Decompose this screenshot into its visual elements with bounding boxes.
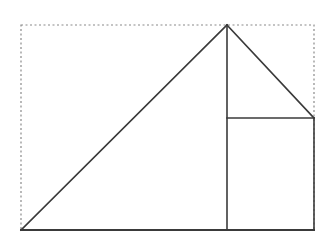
geometry-diagram bbox=[0, 0, 329, 233]
segment-hypotenuse-left bbox=[21, 25, 227, 230]
dotted-bounding-box bbox=[21, 25, 314, 230]
solid-segments bbox=[21, 25, 314, 230]
segment-slant-right bbox=[227, 25, 314, 118]
